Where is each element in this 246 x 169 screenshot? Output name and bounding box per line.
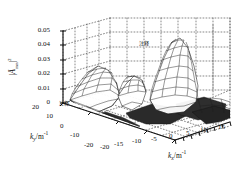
x-tick-label-2: -10 bbox=[132, 138, 141, 145]
right-peak-body bbox=[150, 38, 198, 114]
annotation-left-peak: 注释 bbox=[59, 99, 69, 106]
x-tick-label-1: -15 bbox=[114, 141, 123, 148]
z-tick-label-1: 0.04 bbox=[24, 41, 50, 48]
x-tick-label-0: -20 bbox=[100, 144, 109, 151]
z-axis-label: |Ãmn|2 bbox=[7, 44, 21, 90]
figure-3d-surface-plot: 0.05 0.04 0.03 0.02 0.01 0 |Ãmn|2 20 10 … bbox=[0, 0, 246, 169]
y-tick-label-1: 10 bbox=[46, 113, 53, 120]
z-tick-label-3: 0.02 bbox=[24, 70, 50, 77]
x-axis-label-sup: -1 bbox=[182, 149, 187, 155]
z-tick-label-2: 0.03 bbox=[24, 56, 50, 63]
y-axis-label-unit: /m bbox=[36, 132, 44, 141]
y-axis-label: ky/m-1 bbox=[30, 131, 48, 143]
y-tick-label-0: 20 bbox=[32, 104, 39, 111]
z-tick-label-0: 0.05 bbox=[24, 27, 50, 34]
center-ridge-body bbox=[118, 76, 146, 110]
z-axis-label-sub: mn bbox=[13, 63, 18, 69]
x-tick-label-6: 10 bbox=[200, 127, 207, 134]
y-tick-label-4: -20 bbox=[84, 142, 93, 149]
z-tick-label-4: 0.01 bbox=[24, 85, 50, 92]
z-axis-label-text: |Ãmn|2 bbox=[8, 59, 17, 76]
x-axis-label-unit: /m bbox=[174, 151, 182, 160]
x-tick-label-7: 15 bbox=[218, 124, 225, 131]
y-tick-label-3: -10 bbox=[70, 132, 79, 139]
x-tick-label-3: -5 bbox=[151, 136, 157, 143]
annotation-right-peak: 注释 bbox=[139, 39, 149, 46]
x-tick-label-4: 0 bbox=[169, 133, 173, 140]
y-axis-label-sup: -1 bbox=[44, 130, 49, 136]
y-tick-label-2: 0 bbox=[60, 123, 64, 130]
x-axis-label: kx/m-1 bbox=[168, 150, 186, 162]
z-axis-label-sup: 2 bbox=[7, 59, 12, 62]
x-tick-label-5: 5 bbox=[186, 130, 190, 137]
